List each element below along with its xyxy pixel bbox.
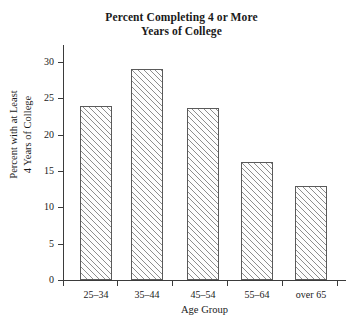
bar-25-34 [80,106,112,281]
bar-over-65 [295,186,327,281]
x-axis-tick [172,281,173,286]
y-axis-tick-label: 5 [49,237,54,250]
x-axis-label-35-44: 35–44 [117,288,177,301]
y-axis-tick: 25 [58,98,63,99]
y-axis-title-line-1: Percent with at Least [7,65,21,205]
x-axis-tick [227,281,228,286]
y-axis-tick-label: 0 [49,273,54,286]
y-axis-tick: 5 [58,244,63,245]
y-axis-title-line-2: 4 Years of College [20,65,34,205]
x-axis-tick [337,281,338,286]
x-axis-label-55-64: 55–64 [227,288,287,301]
x-axis-line [63,280,346,281]
x-axis-title: Age Group [63,303,346,316]
y-axis-tick: 15 [58,171,63,172]
y-axis-tick-label: 30 [44,55,54,68]
bar-45-54 [187,108,219,280]
y-axis-tick-label: 25 [44,91,54,104]
y-axis-line [63,45,64,281]
x-axis-label-45-54: 45–54 [173,288,233,301]
y-axis-tick-label: 15 [44,164,54,177]
y-axis-tick-label: 10 [44,200,54,213]
x-axis-tick [117,281,118,286]
y-axis-tick-label: 20 [44,128,54,141]
chart-title-line-2: Years of College [0,24,363,38]
chart-title-line-1: Percent Completing 4 or More [0,10,363,24]
y-axis-tick: 30 [58,62,63,63]
x-axis-label-over-65: over 65 [281,288,341,301]
bar-chart-figure: Percent Completing 4 or More Years of Co… [0,0,363,330]
y-axis-tick: 20 [58,135,63,136]
x-axis-tick [63,281,64,286]
x-axis-tick [282,281,283,286]
chart-title: Percent Completing 4 or More Years of Co… [0,10,363,38]
bar-55-64 [241,162,273,280]
y-axis-tick: 10 [58,207,63,208]
bar-35-44 [131,69,163,280]
plot-area: 0 5 10 15 20 25 30 25– [63,45,346,281]
y-axis-title: Percent with at Least 4 Years of College [7,65,34,205]
